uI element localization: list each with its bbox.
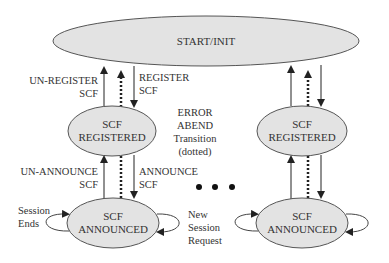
node-registered-right-line1: SCF bbox=[292, 118, 312, 130]
node-announced-left-line2: ANNOUNCED bbox=[78, 223, 148, 235]
label-unannounce-2: SCF bbox=[79, 179, 98, 190]
label-unregister-1: UN-REGISTER bbox=[29, 75, 98, 86]
error-legend: ERROR ABEND Transition (dotted) bbox=[174, 107, 218, 158]
node-registered-right-line2: REGISTERED bbox=[268, 131, 335, 143]
node-registered-right: SCF REGISTERED bbox=[257, 106, 347, 156]
node-registered-left: SCF REGISTERED bbox=[68, 106, 156, 156]
node-announced-right-line2: ANNOUNCED bbox=[267, 223, 337, 235]
node-announced-right-line1: SCF bbox=[292, 210, 312, 222]
label-new-session-2: Session bbox=[188, 222, 221, 233]
loop-new-session-left bbox=[157, 214, 179, 232]
node-announced-left: SCF ANNOUNCED bbox=[67, 198, 159, 248]
label-unannounce-1: UN-ANNOUNCE bbox=[20, 166, 98, 177]
node-registered-left-line1: SCF bbox=[102, 118, 122, 130]
left-arrows-bottom bbox=[104, 155, 134, 199]
right-arrows-bottom bbox=[291, 155, 321, 199]
legend-line1: ERROR bbox=[177, 107, 212, 118]
label-new-session-1: New bbox=[188, 209, 208, 220]
legend-line2: ABEND bbox=[177, 120, 214, 131]
node-start-label: START/INIT bbox=[177, 35, 236, 47]
state-diagram: START/INIT UN-REGISTER SCF REGISTER SCF … bbox=[0, 0, 389, 263]
label-new-session-3: Request bbox=[188, 235, 222, 246]
ellipsis-dots bbox=[196, 184, 235, 190]
label-register-2: SCF bbox=[139, 85, 158, 96]
node-announced-right: SCF ANNOUNCED bbox=[256, 198, 348, 248]
legend-line3: Transition bbox=[174, 133, 218, 144]
label-unregister-2: SCF bbox=[79, 88, 98, 99]
loop-session-ends-right bbox=[235, 214, 258, 231]
node-start-init: START/INIT bbox=[53, 16, 359, 66]
node-announced-left-line1: SCF bbox=[103, 210, 123, 222]
loop-session-ends-left bbox=[46, 214, 69, 231]
legend-line4: (dotted) bbox=[178, 146, 212, 158]
label-announce-1: ANNOUNCE bbox=[139, 166, 198, 177]
label-register-1: REGISTER bbox=[139, 72, 189, 83]
left-arrows-top bbox=[104, 66, 134, 107]
label-announce-2: SCF bbox=[139, 179, 158, 190]
label-session-ends-2: Ends bbox=[18, 218, 39, 229]
node-registered-left-line2: REGISTERED bbox=[78, 131, 145, 143]
loop-new-session-right bbox=[346, 214, 368, 232]
right-arrows-top bbox=[291, 65, 321, 106]
label-session-ends-1: Session bbox=[18, 205, 51, 216]
